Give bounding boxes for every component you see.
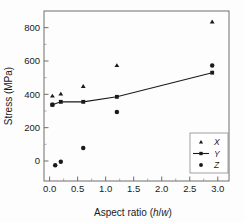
data-point-circle (50, 102, 54, 106)
x-tick-label: 2.5 (183, 183, 196, 194)
data-point-square (210, 71, 214, 75)
x-tick-label: 0.5 (71, 183, 84, 194)
series-X (50, 20, 215, 98)
data-point-circle (59, 160, 63, 164)
x-tick-label: 1.0 (99, 183, 112, 194)
data-point-triangle (114, 63, 119, 67)
data-point-circle (115, 110, 119, 114)
x-axis-title: Aspect ratio (h/w) (94, 207, 172, 218)
x-tick-label: 3.0 (211, 183, 224, 194)
data-point-circle (199, 163, 203, 167)
data-point-triangle (50, 94, 55, 98)
series-line-Y (52, 73, 212, 105)
chart-legend: XYZ (190, 133, 228, 173)
data-point-triangle (210, 20, 215, 24)
y-tick-label: 0 (35, 155, 40, 166)
data-point-circle (210, 63, 214, 67)
chart-figure: 0.00.51.01.52.02.53.0 0200400600800 XYZ … (0, 0, 244, 222)
x-axis-tick-labels: 0.00.51.01.52.02.53.0 (43, 183, 224, 194)
y-axis-ticks (44, 28, 49, 161)
y-axis-tick-labels: 0200400600800 (24, 22, 40, 166)
data-point-triangle (58, 92, 63, 96)
y-tick-label: 400 (24, 89, 40, 100)
data-point-square (59, 100, 63, 104)
data-point-triangle (81, 84, 86, 88)
y-tick-label: 600 (24, 55, 40, 66)
data-point-circle (53, 163, 57, 167)
y-tick-label: 200 (24, 122, 40, 133)
x-tick-label: 1.5 (127, 183, 140, 194)
data-point-circle (81, 146, 85, 150)
y-axis-title: Stress (MPa) (3, 67, 14, 125)
y-tick-label: 800 (24, 22, 40, 33)
data-point-square (115, 95, 119, 99)
legend-label-X: X (213, 137, 220, 147)
data-point-square (81, 100, 85, 104)
data-point-square (199, 152, 202, 155)
x-axis-ticks (50, 177, 218, 182)
legend-label-Z: Z (213, 160, 220, 170)
series-Y (50, 71, 214, 107)
stress-vs-aspect-ratio-chart: 0.00.51.01.52.02.53.0 0200400600800 XYZ … (0, 0, 244, 222)
x-tick-label: 0.0 (43, 183, 56, 194)
x-tick-label: 2.0 (155, 183, 168, 194)
